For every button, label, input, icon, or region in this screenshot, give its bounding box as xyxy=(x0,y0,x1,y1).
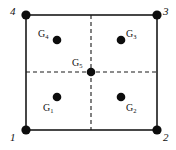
gauss-point-subscript: 1 xyxy=(50,107,53,114)
gauss-point-subscript: 5 xyxy=(79,62,82,69)
gauss-point-subscript: 2 xyxy=(133,107,136,114)
corner-node-label-1: 1 xyxy=(10,132,16,143)
corner-node-marker-3 xyxy=(152,10,161,19)
gauss-point-subscript: 4 xyxy=(45,33,48,40)
corner-node-label-2: 2 xyxy=(163,132,169,143)
gauss-point-label-5: G5 xyxy=(72,58,82,68)
corner-node-marker-1 xyxy=(21,125,30,134)
gauss-point-label-3: G3 xyxy=(126,29,136,39)
quadrilateral-element-figure: 1 2 3 4 G1 G2 G3 G4 G5 xyxy=(0,0,176,150)
gauss-point-marker-1 xyxy=(53,93,62,102)
gauss-point-label-2: G2 xyxy=(126,103,136,113)
gauss-point-label-4: G4 xyxy=(38,29,48,39)
corner-node-label-3: 3 xyxy=(163,6,169,17)
gauss-point-marker-3 xyxy=(117,36,126,45)
gauss-point-marker-5 xyxy=(87,68,96,77)
gauss-point-subscript: 3 xyxy=(133,33,136,40)
figure-canvas xyxy=(0,0,176,150)
gauss-point-label-1: G1 xyxy=(43,103,53,113)
corner-node-marker-2 xyxy=(152,125,161,134)
gauss-point-marker-4 xyxy=(53,36,62,45)
corner-node-marker-4 xyxy=(21,10,30,19)
corner-node-label-4: 4 xyxy=(10,6,16,17)
gauss-point-marker-2 xyxy=(117,93,126,102)
